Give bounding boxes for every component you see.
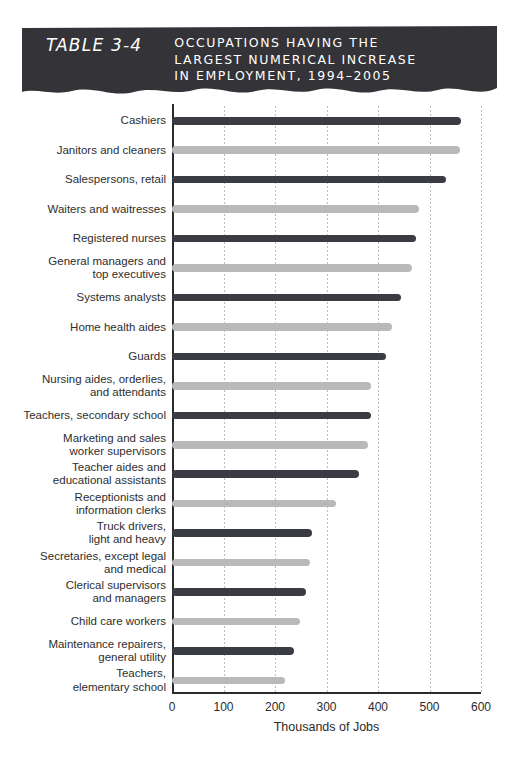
category-label-line: Home health aides bbox=[0, 321, 166, 334]
bar bbox=[172, 264, 412, 272]
category-label: Guards bbox=[0, 350, 166, 363]
category-label-line: Receptionists and bbox=[0, 491, 166, 504]
category-label: Waiters and waitresses bbox=[0, 203, 166, 216]
bar bbox=[172, 146, 460, 154]
x-tick-label-500: 500 bbox=[419, 700, 439, 714]
category-label: Marketing and salesworker supervisors bbox=[0, 432, 166, 458]
plot-area: 0100200300400500600 Thousands of Jobs bbox=[172, 104, 492, 704]
category-label-line: Janitors and cleaners bbox=[0, 144, 166, 157]
bar bbox=[172, 323, 392, 331]
category-label-line: educational assistants bbox=[0, 474, 166, 487]
title-line-1: OCCUPATIONS HAVING THE bbox=[174, 35, 416, 52]
gridline-400 bbox=[378, 106, 379, 692]
bar bbox=[172, 412, 371, 420]
gridline-100 bbox=[224, 106, 225, 692]
category-axis-labels: CashiersJanitors and cleanersSalesperson… bbox=[0, 104, 166, 704]
y-axis-line bbox=[172, 104, 174, 693]
bar bbox=[172, 618, 300, 626]
category-label: Child care workers bbox=[0, 615, 166, 628]
x-tick-label-100: 100 bbox=[213, 700, 233, 714]
table-title-text: OCCUPATIONS HAVING THE LARGEST NUMERICAL… bbox=[174, 35, 416, 85]
category-label-line: and medical bbox=[0, 563, 166, 576]
category-label-line: Teacher aides and bbox=[0, 461, 166, 474]
bar bbox=[172, 470, 359, 478]
bar bbox=[172, 559, 310, 567]
category-label: Registered nurses bbox=[0, 232, 166, 245]
bar bbox=[172, 647, 294, 655]
x-tick-label-600: 600 bbox=[471, 700, 491, 714]
category-label-line: Secretaries, except legal bbox=[0, 550, 166, 563]
bar bbox=[172, 677, 285, 685]
bar bbox=[172, 205, 419, 213]
category-label-line: Child care workers bbox=[0, 615, 166, 628]
bar bbox=[172, 529, 312, 537]
category-label-line: elementary school bbox=[0, 681, 166, 694]
category-label: Receptionists andinformation clerks bbox=[0, 491, 166, 517]
category-label-line: top executives bbox=[0, 268, 166, 281]
gridline-600 bbox=[481, 106, 482, 692]
category-label-line: Marketing and sales bbox=[0, 432, 166, 445]
category-label-line: Cashiers bbox=[0, 114, 166, 127]
category-label-line: Salespersons, retail bbox=[0, 173, 166, 186]
x-axis-line bbox=[172, 692, 481, 694]
bar bbox=[172, 382, 371, 390]
category-label: Systems analysts bbox=[0, 291, 166, 304]
category-label-line: general utility bbox=[0, 651, 166, 664]
category-label-line: and managers bbox=[0, 592, 166, 605]
category-label-line: Systems analysts bbox=[0, 291, 166, 304]
category-label: General managers andtop executives bbox=[0, 255, 166, 281]
bar bbox=[172, 176, 446, 184]
x-axis-title: Thousands of Jobs bbox=[172, 720, 481, 734]
gridline-300 bbox=[327, 106, 328, 692]
gridline-500 bbox=[430, 106, 431, 692]
category-label-line: and attendants bbox=[0, 386, 166, 399]
x-tick-label-300: 300 bbox=[316, 700, 336, 714]
bar bbox=[172, 117, 461, 125]
category-label: Cashiers bbox=[0, 114, 166, 127]
category-label-line: Teachers, bbox=[0, 667, 166, 680]
category-label: Truck drivers,light and heavy bbox=[0, 520, 166, 546]
x-tick-label-0: 0 bbox=[169, 700, 176, 714]
category-label-line: Registered nurses bbox=[0, 232, 166, 245]
category-label-line: worker supervisors bbox=[0, 445, 166, 458]
bar-chart: CashiersJanitors and cleanersSalesperson… bbox=[0, 104, 519, 724]
table-number-label: TABLE 3-4 bbox=[46, 35, 142, 55]
category-label-line: Truck drivers, bbox=[0, 520, 166, 533]
bar bbox=[172, 353, 386, 361]
bar bbox=[172, 588, 306, 596]
category-label: Clerical supervisorsand managers bbox=[0, 579, 166, 605]
category-label: Janitors and cleaners bbox=[0, 144, 166, 157]
category-label-line: Maintenance repairers, bbox=[0, 638, 166, 651]
x-tick-label-400: 400 bbox=[368, 700, 388, 714]
table-title-banner: TABLE 3-4 OCCUPATIONS HAVING THE LARGEST… bbox=[22, 26, 497, 102]
title-line-3: IN EMPLOYMENT, 1994–2005 bbox=[174, 68, 416, 85]
category-label-line: Guards bbox=[0, 350, 166, 363]
gridline-200 bbox=[275, 106, 276, 692]
category-label: Secretaries, except legaland medical bbox=[0, 550, 166, 576]
category-label: Home health aides bbox=[0, 321, 166, 334]
banner-text-block: TABLE 3-4 OCCUPATIONS HAVING THE LARGEST… bbox=[22, 26, 497, 90]
category-label-line: light and heavy bbox=[0, 533, 166, 546]
category-label: Teachers,elementary school bbox=[0, 667, 166, 693]
title-line-2: LARGEST NUMERICAL INCREASE bbox=[174, 52, 416, 69]
bar bbox=[172, 500, 336, 508]
category-label-line: Teachers, secondary school bbox=[0, 409, 166, 422]
category-label-line: Nursing aides, orderlies, bbox=[0, 373, 166, 386]
category-label-line: General managers and bbox=[0, 255, 166, 268]
category-label: Teacher aides andeducational assistants bbox=[0, 461, 166, 487]
category-label-line: information clerks bbox=[0, 504, 166, 517]
category-label: Salespersons, retail bbox=[0, 173, 166, 186]
bar bbox=[172, 441, 368, 449]
bar bbox=[172, 235, 416, 243]
x-tick-label-200: 200 bbox=[265, 700, 285, 714]
category-label-line: Clerical supervisors bbox=[0, 579, 166, 592]
category-label-line: Waiters and waitresses bbox=[0, 203, 166, 216]
category-label: Maintenance repairers,general utility bbox=[0, 638, 166, 664]
category-label: Nursing aides, orderlies,and attendants bbox=[0, 373, 166, 399]
category-label: Teachers, secondary school bbox=[0, 409, 166, 422]
bar bbox=[172, 294, 401, 302]
